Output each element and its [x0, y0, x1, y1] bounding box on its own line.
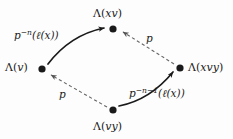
- edge-label-base-lower-left: p: [59, 88, 66, 100]
- edge-label-lower-right: p−n−1(ℓ(x)): [129, 88, 185, 99]
- node-label-lambda-v: Λ(v): [5, 62, 28, 73]
- paren-close-bottom: ): [118, 120, 122, 133]
- lambda-glyph-left: Λ: [5, 61, 13, 74]
- edge-label-base-lower-right: p: [129, 87, 136, 99]
- node-arg-right: xvy: [200, 61, 219, 74]
- edge-label-upper-right: p: [146, 33, 153, 44]
- node-label-lambda-vy: Λ(vy): [93, 121, 122, 132]
- node-dot-lambda-xvy: [176, 64, 183, 71]
- edge-label-lower-left: p: [59, 89, 66, 100]
- edge-label-exponent-upper-left: −n: [21, 28, 32, 37]
- node-arg-bottom: vy: [105, 120, 117, 133]
- node-dot-lambda-xv: [109, 25, 116, 32]
- node-label-lambda-xvy: Λ(xvy): [188, 62, 223, 73]
- edge-label-exponent-lower-right: −n−1: [136, 86, 158, 95]
- paren-close-left: ): [23, 61, 27, 74]
- node-dot-lambda-v: [38, 65, 45, 72]
- edge-label-tail-upper-left: (ℓ(x)): [32, 29, 59, 41]
- lambda-glyph-top: Λ: [93, 7, 101, 20]
- node-dot-lambda-vy: [109, 106, 116, 113]
- edge-label-base-upper-left: p: [14, 29, 21, 41]
- paren-close-right: ): [219, 61, 223, 74]
- lambda-glyph-right: Λ: [188, 61, 196, 74]
- paren-close-top: ): [118, 7, 122, 20]
- edge-label-tail-lower-right: (ℓ(x)): [158, 87, 185, 99]
- node-label-lambda-xv: Λ(xv): [93, 8, 122, 19]
- node-arg-top: xv: [105, 7, 117, 20]
- edge-label-upper-left: p−n(ℓ(x)): [14, 30, 59, 41]
- commutative-diagram: Λ(xv) Λ(v) Λ(xvy) Λ(vy) p−n(ℓ(x)) p p p−…: [0, 0, 233, 139]
- lambda-glyph-bottom: Λ: [93, 120, 101, 133]
- edge-label-base-upper-right: p: [146, 32, 153, 44]
